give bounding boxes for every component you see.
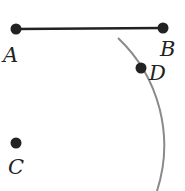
label-layer: ABDC xyxy=(1,37,175,179)
point-layer xyxy=(11,23,169,149)
point-c xyxy=(11,138,22,149)
point-b xyxy=(158,23,169,34)
label-c: C xyxy=(8,155,24,179)
segment-layer xyxy=(16,28,163,29)
geometry-diagram: ABDC xyxy=(0,0,185,191)
label-a: A xyxy=(1,43,18,67)
label-d: D xyxy=(148,61,166,85)
label-b: B xyxy=(159,37,175,61)
point-d xyxy=(136,63,147,74)
point-a xyxy=(11,24,22,35)
segment-ab xyxy=(16,28,163,29)
